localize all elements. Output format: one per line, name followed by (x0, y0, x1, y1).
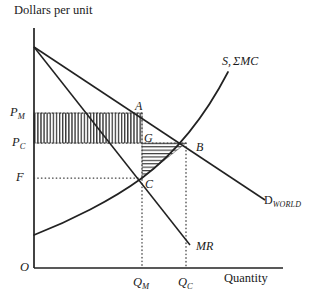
quantity-label-qc: QC (178, 276, 193, 289)
origin-label: O (20, 261, 29, 274)
diagram-canvas (0, 0, 321, 298)
vertical-hatched-rectangle (34, 113, 142, 143)
x-axis-title: Quantity (224, 272, 268, 285)
price-label-f-main: F (16, 170, 24, 184)
point-label-c: C (145, 178, 153, 190)
point-label-a: A (135, 100, 142, 112)
price-label-f: F (16, 171, 24, 184)
price-label-pc-sub: C (20, 141, 26, 151)
marginal-revenue-curve-label: MR (196, 240, 213, 252)
price-label-pc: PC (12, 136, 26, 149)
y-axis-title: Dollars per unit (14, 4, 92, 17)
supply-curve-label-sigma: ΣMC (233, 54, 258, 68)
quantity-label-qc-sub: C (187, 281, 193, 291)
quantity-label-qc-main: Q (178, 275, 187, 289)
point-label-b: B (196, 141, 203, 153)
quantity-label-qm: QM (133, 276, 149, 289)
economics-diagram: Dollars per unit Quantity O PM PC F QM Q… (0, 0, 321, 298)
point-label-g: G (144, 132, 153, 144)
supply-curve-label: S,ΣMC (222, 55, 258, 67)
price-label-pc-main: P (12, 135, 20, 149)
price-label-pm: PM (10, 106, 25, 119)
demand-curve-label-sub: WORLD (273, 200, 302, 209)
demand-curve-label-main: D (264, 193, 273, 207)
quantity-label-qm-main: Q (133, 275, 142, 289)
supply-curve-label-main: S, (222, 54, 231, 68)
price-label-pm-sub: M (18, 111, 25, 121)
quantity-label-qm-sub: M (142, 281, 149, 291)
price-label-pm-main: P (10, 105, 18, 119)
demand-curve-label: DWORLD (264, 194, 301, 206)
